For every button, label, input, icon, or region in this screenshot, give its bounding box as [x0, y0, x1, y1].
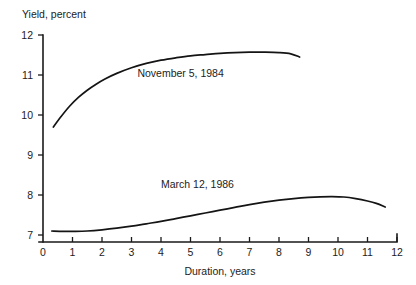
- y-axis-tick-label: 11: [22, 69, 33, 81]
- y-axis-tick-label: 9: [27, 149, 33, 161]
- x-axis-tick-label: 2: [99, 246, 105, 258]
- chart-page: Yield, percent 789101112 012345678910111…: [0, 0, 416, 285]
- x-axis-tick-label: 11: [362, 246, 373, 258]
- yield-curve-chart: Yield, percent 789101112 012345678910111…: [0, 0, 416, 285]
- y-axis-tick-label: 7: [27, 229, 33, 241]
- series-label-1: November 5, 1984: [137, 67, 224, 79]
- y-axis-title: Yield, percent: [22, 8, 86, 20]
- x-axis-tick-label: 8: [276, 246, 282, 258]
- x-axis-tick-label: 0: [40, 246, 46, 258]
- x-axis-tick-label: 7: [247, 246, 253, 258]
- x-axis-tick-label: 4: [158, 246, 164, 258]
- x-axis-tick-label: 12: [391, 246, 403, 258]
- x-axis-title: Duration, years: [184, 265, 255, 277]
- y-axis-tick-label: 10: [21, 109, 33, 121]
- x-axis-tick-label: 10: [332, 246, 344, 258]
- x-axis-tick-label: 9: [306, 246, 312, 258]
- x-axis-tick-label: 5: [188, 246, 194, 258]
- y-axis-tick-label: 8: [27, 189, 33, 201]
- x-axis-tick-label: 6: [217, 246, 223, 258]
- y-axis-tick-label: 12: [21, 29, 33, 41]
- series-label-2: March 12, 1986: [161, 178, 234, 190]
- x-axis-tick-label: 3: [129, 246, 135, 258]
- x-axis-tick-label: 1: [70, 246, 76, 258]
